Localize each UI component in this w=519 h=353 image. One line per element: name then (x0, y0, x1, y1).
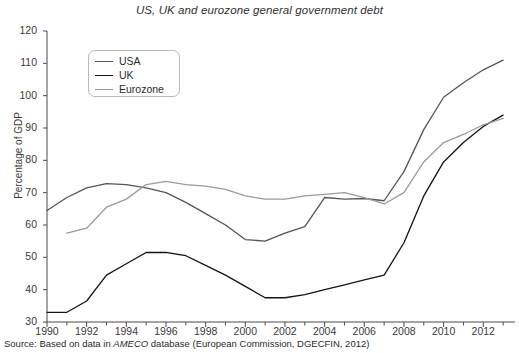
series-line-eurozone (67, 118, 503, 233)
x-tick-label: 1992 (67, 325, 107, 337)
legend-item-uk: UK (95, 69, 173, 82)
legend: USA UK Eurozone (88, 50, 180, 97)
x-tick-label: 2008 (384, 325, 424, 337)
x-tick-label: 2006 (344, 325, 384, 337)
y-tick-label: 50 (7, 250, 37, 262)
x-tick-label: 2010 (424, 325, 464, 337)
y-tick-label: 60 (7, 218, 37, 230)
legend-swatch-eurozone (95, 89, 113, 90)
source-prefix: Source: Based on data in (4, 338, 113, 349)
source-suffix: database (European Commission, DGECFIN, … (148, 338, 369, 349)
x-tick-label: 1998 (186, 325, 226, 337)
legend-swatch-usa (95, 61, 113, 62)
series-line-uk (47, 115, 503, 312)
y-tick-label: 100 (7, 89, 37, 101)
legend-swatch-uk (95, 75, 113, 76)
y-tick-label: 70 (7, 186, 37, 198)
source-emphasis: AMECO (113, 338, 148, 349)
chart-container: US, UK and eurozone general government d… (0, 0, 519, 353)
y-tick-label: 80 (7, 153, 37, 165)
legend-item-eurozone: Eurozone (95, 83, 173, 96)
x-tick-label: 1994 (106, 325, 146, 337)
x-tick-label: 1996 (146, 325, 186, 337)
x-tick-label: 2000 (225, 325, 265, 337)
source-note: Source: Based on data in AMECO database … (4, 338, 369, 349)
y-tick-label: 90 (7, 121, 37, 133)
x-tick-label: 2004 (305, 325, 345, 337)
data-series-group (47, 60, 503, 312)
x-tick-label: 2002 (265, 325, 305, 337)
plot-area (0, 0, 519, 353)
legend-label-uk: UK (119, 70, 134, 81)
legend-label-eurozone: Eurozone (119, 84, 164, 95)
y-tick-label: 40 (7, 283, 37, 295)
legend-label-usa: USA (119, 56, 141, 67)
y-tick-label: 110 (7, 56, 37, 68)
x-tick-label: 1990 (27, 325, 67, 337)
x-tick-label: 2012 (463, 325, 503, 337)
legend-item-usa: USA (95, 55, 173, 68)
y-tick-label: 120 (7, 24, 37, 36)
